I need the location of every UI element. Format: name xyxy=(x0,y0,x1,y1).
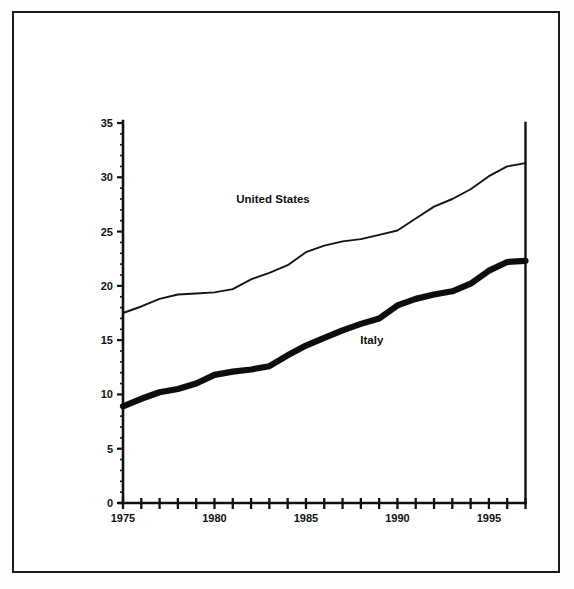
y-axis-tick-label: 30 xyxy=(101,171,113,183)
x-axis-tick-label: 1995 xyxy=(477,512,501,524)
x-axis: 19751980198519901995 xyxy=(111,498,526,524)
y-axis-tick-label: 20 xyxy=(101,280,113,292)
x-axis-tick-label: 1980 xyxy=(202,512,226,524)
y-axis-tick-label: 25 xyxy=(101,226,113,238)
series-line-united-states xyxy=(123,163,526,313)
line-chart-svg: 05101520253035 19751980198519901995 Unit… xyxy=(0,0,574,589)
chart-page: 05101520253035 19751980198519901995 Unit… xyxy=(0,0,574,589)
x-axis-tick-label: 1985 xyxy=(294,512,318,524)
series-label-italy: Italy xyxy=(360,334,384,346)
series-line-italy xyxy=(123,261,526,406)
y-axis: 05101520253035 xyxy=(101,117,123,509)
y-axis-tick-label: 5 xyxy=(107,443,113,455)
y-axis-tick-label: 15 xyxy=(101,334,113,346)
series-label-united-states: United States xyxy=(236,193,310,205)
x-axis-tick-label: 1990 xyxy=(385,512,409,524)
data-series-group xyxy=(123,163,526,406)
chart-plot-area: 05101520253035 19751980198519901995 Unit… xyxy=(0,0,574,589)
x-axis-tick-label: 1975 xyxy=(111,512,135,524)
y-axis-tick-label: 35 xyxy=(101,117,113,129)
y-axis-tick-label: 10 xyxy=(101,388,113,400)
y-axis-tick-label: 0 xyxy=(107,497,113,509)
